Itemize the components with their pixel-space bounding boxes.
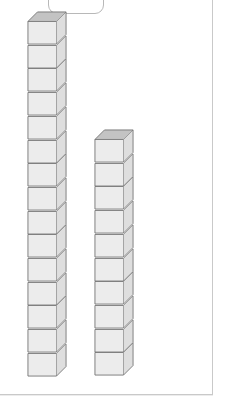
right-tower [0, 0, 234, 409]
worksheet-page [0, 0, 234, 409]
unit-cube [94, 342, 136, 378]
